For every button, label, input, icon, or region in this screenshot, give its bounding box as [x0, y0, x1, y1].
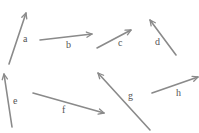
vector-label: g: [128, 90, 133, 101]
vector-a: a: [9, 13, 28, 64]
vector-b: b: [40, 32, 92, 50]
vector-shaft: [150, 20, 176, 55]
vector-shaft: [152, 77, 198, 93]
vector-shaft: [33, 93, 104, 113]
vector-label: f: [62, 104, 66, 115]
vector-shaft: [98, 73, 150, 130]
vector-e: e: [2, 74, 18, 127]
vectors-group: abcdefgh: [2, 13, 198, 130]
vector-label: d: [155, 36, 160, 47]
vector-shaft: [97, 30, 131, 48]
vector-c: c: [97, 30, 131, 48]
vector-g: g: [98, 73, 150, 130]
vector-shaft: [4, 74, 12, 127]
vector-h: h: [152, 76, 198, 98]
vector-d: d: [150, 20, 176, 55]
vector-label: a: [23, 33, 28, 44]
vector-diagram-svg: abcdefgh: [0, 0, 199, 133]
vector-label: b: [66, 39, 71, 50]
vector-label: c: [118, 37, 123, 48]
vector-f: f: [33, 93, 104, 115]
vector-label: h: [176, 87, 181, 98]
vector-label: e: [13, 95, 18, 106]
vector-diagram: abcdefgh: [0, 0, 199, 133]
